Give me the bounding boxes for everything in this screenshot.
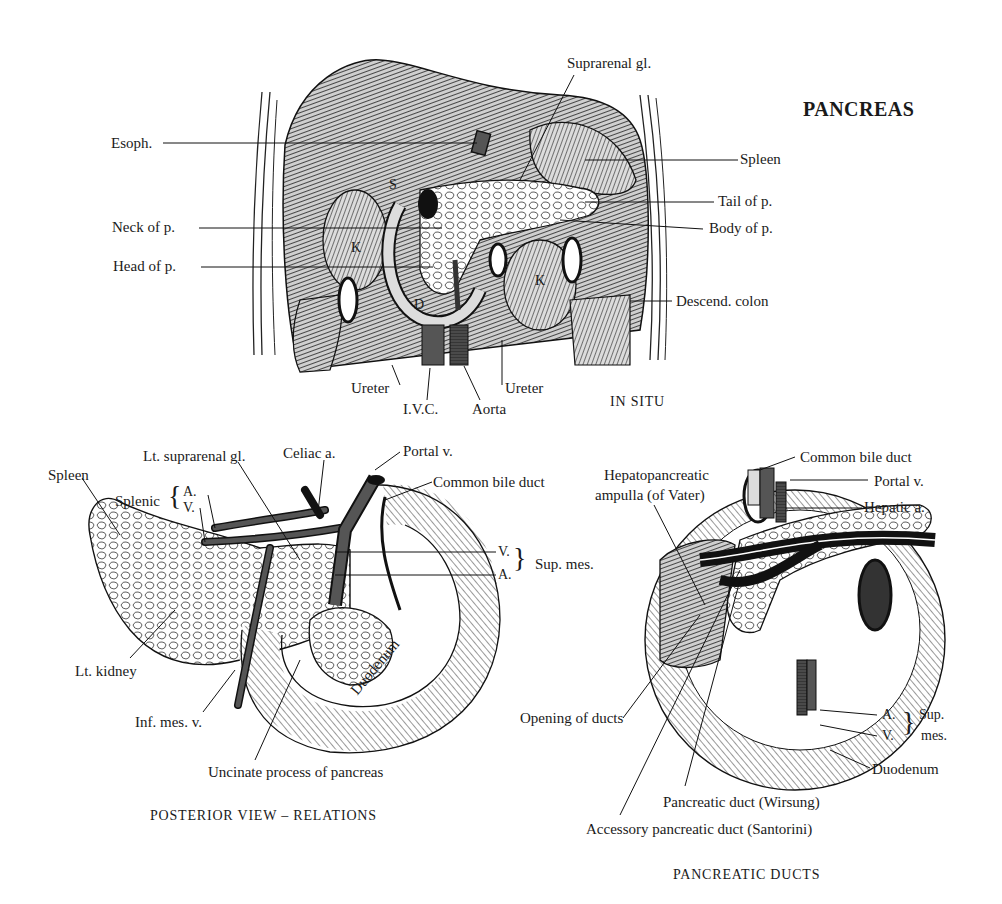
label-splenic-v: V. — [183, 501, 195, 515]
label-lt-kidney: Lt. kidney — [75, 664, 137, 679]
label-neck-of-p: Neck of p. — [112, 220, 175, 235]
label-common-bile-duct-posterior: Common bile duct — [433, 475, 545, 490]
label-inf-mes-v: Inf. mes. v. — [135, 715, 202, 730]
label-pancreatic-duct-wirsung: Pancreatic duct (Wirsung) — [663, 795, 820, 810]
label-aorta: Aorta — [472, 402, 506, 417]
label-uncinate-process: Uncinate process of pancreas — [208, 765, 383, 780]
label-suprarenal-gl: Suprarenal gl. — [567, 56, 651, 71]
label-splenic: Splenic — [115, 494, 160, 509]
label-spleen: Spleen — [740, 152, 781, 167]
label-sup-mes-posterior: Sup. mes. — [535, 557, 594, 572]
label-tail-of-p: Tail of p. — [718, 194, 772, 209]
label-opening-of-ducts: Opening of ducts — [520, 711, 623, 726]
label-splenic-a: A. — [183, 485, 197, 499]
label-hepatopancreatic-line1: Hepatopancreatic — [604, 468, 709, 483]
letter-k-right: K — [535, 274, 545, 288]
label-esoph: Esoph. — [111, 136, 152, 151]
label-hepatic-a: Hepatic a. — [864, 500, 925, 515]
brace-sup-mes-posterior: } — [513, 544, 526, 572]
label-sup-mes-v-posterior: V. — [498, 545, 510, 559]
label-spleen-posterior: Spleen — [48, 468, 89, 483]
label-accessory-pancreatic-duct-santorini: Accessory pancreatic duct (Santorini) — [586, 822, 812, 837]
label-duodenum-ducts: Duodenum — [872, 762, 939, 777]
label-body-of-p: Body of p. — [709, 221, 773, 236]
page-title: PANCREAS — [803, 98, 914, 121]
caption-posterior-view: POSTERIOR VIEW – RELATIONS — [150, 808, 377, 824]
label-common-bile-duct-ducts: Common bile duct — [800, 450, 912, 465]
letter-s: S — [389, 178, 397, 192]
caption-pancreatic-ducts: PANCREATIC DUCTS — [673, 867, 820, 883]
brace-splenic: { — [168, 482, 181, 510]
caption-in-situ: IN SITU — [610, 394, 665, 410]
label-head-of-p: Head of p. — [113, 259, 176, 274]
label-ureter-left: Ureter — [351, 381, 389, 396]
label-mes-ducts: mes. — [921, 729, 947, 743]
label-hepatopancreatic-line2: ampulla (of Vater) — [595, 488, 705, 503]
label-sup-mes-a-posterior: A. — [498, 568, 512, 582]
letter-d: D — [414, 298, 424, 312]
label-ureter-right: Ureter — [505, 381, 543, 396]
label-descend-colon: Descend. colon — [676, 294, 768, 309]
letter-k-left: K — [351, 241, 361, 255]
label-portal-v-posterior: Portal v. — [403, 444, 453, 459]
label-sup-ducts: Sup. — [919, 708, 944, 722]
in-situ-drawing — [163, 60, 738, 400]
label-lt-suprarenal-gl: Lt. suprarenal gl. — [143, 449, 245, 464]
label-sup-mes-a-ducts: A. — [882, 708, 896, 722]
brace-sup-mes-ducts: } — [902, 708, 915, 736]
label-ivc: I.V.C. — [403, 402, 438, 417]
label-sup-mes-v-ducts: V. — [882, 729, 894, 743]
label-portal-v-ducts: Portal v. — [874, 474, 924, 489]
label-celiac-a: Celiac a. — [283, 446, 335, 461]
